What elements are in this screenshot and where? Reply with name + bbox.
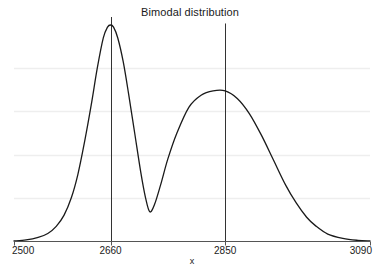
x-axis-tick-label: 2850	[214, 245, 236, 256]
x-axis-tick-label: 3090	[350, 245, 372, 256]
x-axis-ticks	[15, 242, 371, 246]
x-axis-tick-label: 2500	[12, 245, 34, 256]
density-curve	[14, 25, 370, 241]
x-axis-label-text: x	[190, 256, 195, 266]
plot-area	[0, 0, 384, 273]
vertical-reference-lines	[112, 17, 226, 241]
chart-container: Bimodal distribution 2500266028503090 x	[0, 0, 384, 273]
gridlines	[14, 69, 370, 199]
x-axis-label: x	[0, 256, 384, 266]
x-axis-tick-label: 2660	[99, 245, 121, 256]
